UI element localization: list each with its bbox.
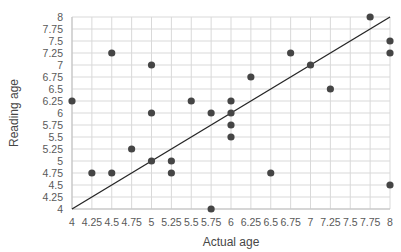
y-tick-label: 5 (57, 155, 63, 167)
data-point (148, 109, 155, 116)
data-point (307, 61, 314, 68)
y-tick-label: 5.75 (43, 119, 64, 131)
y-axis-tick-labels: 44.254.54.7555.255.55.7566.256.56.7577.2… (43, 11, 64, 215)
x-tick-label: 6.25 (241, 216, 262, 228)
x-tick-label: 7.75 (360, 216, 381, 228)
y-tick-label: 7.5 (48, 35, 63, 47)
x-tick-label: 7 (308, 216, 314, 228)
y-tick-label: 6.25 (43, 95, 64, 107)
data-point (88, 169, 95, 176)
chart-figure: 44.254.54.7555.255.55.7566.256.56.7577.2… (0, 0, 401, 252)
y-tick-label: 5.5 (48, 131, 63, 143)
x-tick-label: 5 (149, 216, 155, 228)
data-point (247, 73, 254, 80)
y-tick-label: 7 (57, 59, 63, 71)
y-tick-label: 7.75 (43, 23, 64, 35)
x-tick-label: 4.75 (121, 216, 142, 228)
data-point (267, 169, 274, 176)
data-point (227, 97, 234, 104)
y-tick-label: 5.25 (43, 143, 64, 155)
data-point (108, 49, 115, 56)
data-point (386, 181, 393, 188)
data-point (386, 37, 393, 44)
data-point (208, 109, 215, 116)
data-point (108, 169, 115, 176)
x-tick-label: 4.25 (82, 216, 103, 228)
data-point (227, 121, 234, 128)
y-tick-label: 7.25 (43, 47, 64, 59)
y-tick-label: 4.25 (43, 191, 64, 203)
x-axis-title: Actual age (203, 235, 260, 249)
x-tick-label: 5.25 (161, 216, 182, 228)
x-tick-label: 6.5 (263, 216, 278, 228)
x-tick-label: 6.75 (280, 216, 301, 228)
x-axis-tick-labels: 44.254.54.7555.255.55.7566.256.56.7577.2… (69, 216, 393, 228)
data-point (68, 97, 75, 104)
x-tick-label: 5.5 (184, 216, 199, 228)
data-point (208, 205, 215, 212)
y-tick-label: 6 (57, 107, 63, 119)
data-point (287, 49, 294, 56)
x-tick-label: 4.5 (104, 216, 119, 228)
data-point (327, 85, 334, 92)
y-tick-label: 4.5 (48, 179, 63, 191)
x-tick-label: 6 (228, 216, 234, 228)
y-tick-label: 8 (57, 11, 63, 23)
data-point (188, 97, 195, 104)
x-tick-label: 4 (69, 216, 75, 228)
data-point (227, 109, 234, 116)
reading-age-vs-actual-age-scatter: 44.254.54.7555.255.55.7566.256.56.7577.2… (0, 0, 401, 252)
y-tick-label: 4.75 (43, 167, 64, 179)
data-point (148, 61, 155, 68)
y-tick-label: 6.75 (43, 71, 64, 83)
y-tick-label: 4 (57, 203, 63, 215)
data-point (367, 13, 374, 20)
data-point (168, 157, 175, 164)
y-axis-title: Reading age (7, 79, 21, 147)
data-point (168, 169, 175, 176)
x-tick-label: 8 (387, 216, 393, 228)
data-point (227, 133, 234, 140)
data-point (148, 157, 155, 164)
data-point (128, 145, 135, 152)
x-tick-label: 7.5 (343, 216, 358, 228)
x-tick-label: 5.75 (201, 216, 222, 228)
y-tick-label: 6.5 (48, 83, 63, 95)
x-tick-label: 7.25 (320, 216, 341, 228)
data-point (386, 49, 393, 56)
